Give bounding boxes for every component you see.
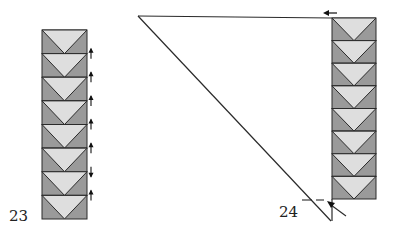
- flying-geese-unit: [42, 30, 87, 54]
- arrow-up-icon: [89, 95, 94, 106]
- flying-geese-unit: [42, 101, 87, 125]
- flying-geese-unit: [332, 41, 376, 64]
- flying-geese-unit: [42, 195, 87, 219]
- flying-geese-unit: [42, 125, 87, 149]
- flying-geese-unit: [332, 18, 376, 41]
- flying-geese-unit: [332, 109, 376, 132]
- flying-geese-unit: [332, 86, 376, 109]
- flying-geese-unit: [332, 176, 376, 199]
- arrow-up-icon: [89, 119, 94, 130]
- arrow-up-icon: [89, 71, 94, 82]
- flying-geese-unit: [332, 154, 376, 177]
- arrow-up-icon: [89, 48, 94, 59]
- flying-geese-unit: [42, 54, 87, 78]
- arrow-up-icon: [89, 142, 94, 153]
- flying-geese-unit: [332, 63, 376, 86]
- arrow-down-icon: [89, 167, 94, 178]
- arrow-up-icon: [89, 189, 94, 200]
- top-arrow-icon: [323, 10, 337, 16]
- flying-geese-strip-left: [42, 30, 87, 219]
- setting-triangle: [138, 16, 332, 221]
- flying-geese-unit: [42, 148, 87, 172]
- step-label-24: 24: [279, 203, 298, 221]
- flying-geese-unit: [42, 172, 87, 196]
- flying-geese-unit: [42, 77, 87, 101]
- diagram-canvas: [0, 0, 399, 234]
- pressing-arrows-left: [89, 48, 94, 201]
- flying-geese-strip-right: [332, 18, 376, 199]
- step-label-23: 23: [9, 207, 28, 225]
- flying-geese-unit: [332, 131, 376, 154]
